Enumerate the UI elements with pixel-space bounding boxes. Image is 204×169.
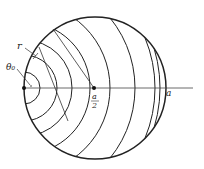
center-point bbox=[92, 86, 96, 90]
label-half-a-denominator: 2 bbox=[91, 101, 97, 110]
theta0-arrow-dot bbox=[30, 85, 32, 87]
radius-line-to-center bbox=[53, 29, 94, 88]
label-r: r bbox=[17, 40, 23, 51]
spherical-wavefront-diagram: r θ₀ a 2 a bbox=[0, 0, 204, 169]
radius-line-inner bbox=[39, 47, 68, 121]
source-point bbox=[22, 86, 26, 90]
label-theta0: θ₀ bbox=[6, 62, 15, 72]
label-a: a bbox=[166, 88, 171, 98]
label-half-a-numerator: a bbox=[92, 92, 97, 101]
wavefront-arc bbox=[0, 2, 110, 169]
wavefront-arc bbox=[0, 0, 155, 169]
wavefront-arc bbox=[0, 0, 135, 169]
